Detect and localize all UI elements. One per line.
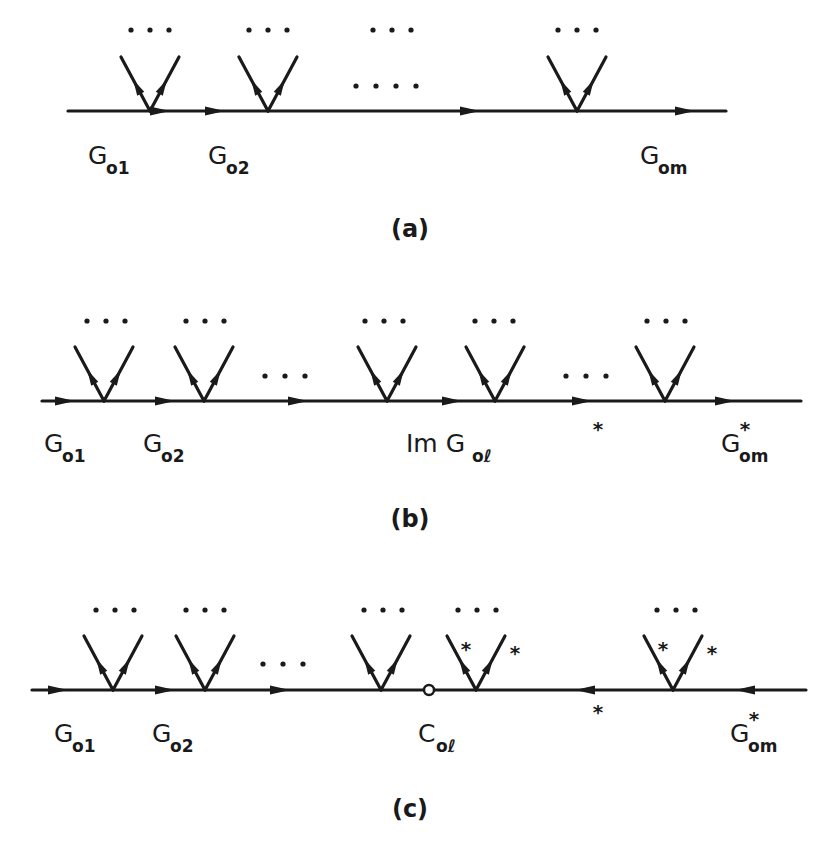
label-subscript: o2 [161,446,185,466]
vertex: ** [447,636,521,690]
conjugate-star: * [593,417,604,441]
label-main: G [730,719,749,748]
label-star: * [749,707,760,731]
propagator-label: Gom [640,141,687,178]
arrow-right-icon [460,107,480,116]
vertex [636,347,694,401]
vertex [84,636,142,690]
label-subscript: o1 [106,158,130,178]
label-main: C [418,719,435,748]
propagator-label: Go1 [54,719,96,756]
arrow-right-icon [715,397,735,406]
arrow-right-icon [155,686,175,695]
ellipsis-middle [563,373,608,378]
vertex [176,636,234,690]
vertex [466,347,524,401]
label-subscript: om [748,736,777,756]
label-subscript: o1 [72,736,96,756]
vertex [175,347,233,401]
label-subscript: o2 [170,736,194,756]
arm-arrow-icon [133,80,144,96]
label-main: G [208,141,227,170]
arm-arrow-icon [187,370,198,386]
caption-a: (a) [391,215,429,243]
arm-arrow-icon [393,370,404,386]
conjugate-star: * [510,641,521,665]
arm-arrow-icon [156,80,167,96]
arm-arrow-icon [387,659,398,675]
arm-arrow-icon [478,370,489,386]
label-main: G [152,719,171,748]
arrow-right-icon [270,686,290,695]
ellipsis-top [370,27,413,32]
label-subscript: om [658,158,687,178]
propagator-label: Gom* [730,707,777,756]
caption-b: (b) [390,505,429,533]
arm-arrow-icon [251,80,262,96]
panel-b: Go1Go2Im GoℓGom** [42,318,801,466]
arm-arrow-icon [210,370,221,386]
label-main: G [88,141,107,170]
label-main: G [640,141,659,170]
ellipsis-top [93,607,136,612]
label-subscript: oℓ [472,446,492,466]
arrow-right-icon [205,107,225,116]
arrow-right-icon [675,107,695,116]
label-subscript: o2 [226,158,250,178]
conjugate-star: * [658,637,669,661]
label-main: G [721,429,740,458]
arm-arrow-icon [583,80,594,96]
panel-c: ****Go1Go2CoℓGom** [32,607,806,756]
arm-arrow-icon [560,80,571,96]
conjugate-star: * [593,700,604,724]
vertex [352,636,410,690]
arm-arrow-icon [656,659,667,675]
caption-c: (c) [392,795,428,823]
arrow-left-icon [735,686,755,695]
ellipsis-top [246,27,289,32]
ellipsis-top [455,607,498,612]
propagator-label: Im Goℓ [406,429,492,466]
ellipsis-top [644,318,687,323]
ellipsis-top [654,607,697,612]
ellipsis-top [472,318,515,323]
feynman-diagram-canvas: Go1Go2Gom Go1Go2Im GoℓGom** ****Go1Go2Co… [0,0,839,846]
arm-arrow-icon [501,370,512,386]
arrow-right-icon [572,397,592,406]
label-subscript: o1 [62,446,86,466]
conjugate-star: * [461,637,472,661]
label-main: Im G [406,429,465,458]
ellipsis-top [128,27,171,32]
arm-arrow-icon [211,659,222,675]
ellipsis-top [361,607,404,612]
arrow-right-icon [55,397,75,406]
label-subscript: oℓ [436,736,456,756]
arrow-right-icon [48,686,68,695]
arm-arrow-icon [188,659,199,675]
ellipsis-top [362,318,405,323]
ellipsis-top [555,27,598,32]
ellipsis-top [183,607,226,612]
arm-arrow-icon [482,659,493,675]
propagator-label: Go1 [44,429,86,466]
arm-arrow-icon [274,80,285,96]
arm-arrow-icon [648,370,659,386]
propagator-label: Gom* [721,417,768,466]
arm-arrow-icon [679,659,690,675]
vertex [358,347,416,401]
ellipsis-top [183,318,226,323]
label-main: G [54,719,73,748]
vertex: ** [644,636,718,690]
label-star: * [740,417,751,441]
label-subscript: om [739,446,768,466]
label-main: G [44,429,63,458]
ellipsis-top [84,318,127,323]
arm-arrow-icon [459,659,470,675]
arm-arrow-icon [96,659,107,675]
arm-arrow-icon [370,370,381,386]
ellipsis-middle [262,373,307,378]
arm-arrow-icon [364,659,375,675]
propagator-label: Go2 [143,429,185,466]
vertex [548,57,606,111]
open-circle-vertex [424,685,434,695]
